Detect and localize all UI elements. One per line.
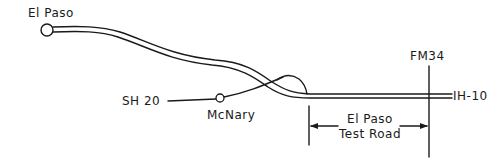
el-paso-city-circle-icon	[41, 24, 53, 36]
route-diagram	[0, 0, 504, 165]
ih10-label: IH-10	[453, 90, 488, 103]
el-paso-label: El Paso	[28, 7, 74, 20]
fm34-label: FM34	[410, 50, 445, 63]
sh20-road-east	[224, 77, 283, 97]
left-arrowhead-icon	[310, 123, 318, 129]
test-road-label-line1: El Paso	[340, 113, 400, 126]
mcnary-label: McNary	[207, 109, 255, 122]
ih10-road-upper-edge	[53, 27, 452, 94]
sh20-road	[168, 99, 216, 101]
test-road-label-line2: Test Road	[335, 128, 405, 141]
right-arrowhead-icon	[420, 123, 428, 129]
ih10-road-lower-edge	[53, 32, 452, 98]
sh20-label: SH 20	[122, 95, 160, 108]
mcnary-town-circle-icon	[216, 94, 224, 102]
